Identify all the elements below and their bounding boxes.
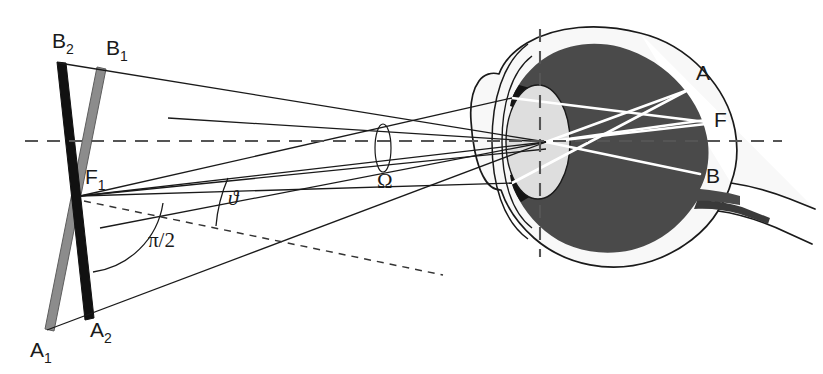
- label-omega: Ω: [377, 169, 393, 193]
- ray-lower-left-in: [80, 98, 512, 196]
- label-f1: F1: [85, 165, 106, 193]
- ray-a-bottom: [47, 142, 546, 330]
- label-retina-a: A: [696, 61, 710, 84]
- label-theta: ϑ: [228, 186, 240, 210]
- label-pi-over-two: π/2: [148, 228, 175, 252]
- ray-cone-lower: [100, 142, 546, 228]
- label-a1: A1: [30, 338, 52, 366]
- label-b1: B1: [106, 36, 128, 64]
- object-bars: [45, 62, 106, 331]
- bar-normal-dashed: [84, 201, 443, 275]
- label-retina-f: F: [714, 108, 727, 131]
- figure-canvas: B2 B1 F1 A1 A2 ϑ π/2 Ω A F B: [0, 0, 823, 374]
- label-b2: B2: [52, 29, 74, 57]
- angle-arc-theta: [216, 178, 228, 226]
- optics-eye-diagram: B2 B1 F1 A1 A2 ϑ π/2 Ω A F B: [0, 0, 823, 374]
- optic-nerve-outline: [718, 211, 812, 244]
- label-a2: A2: [90, 318, 112, 346]
- label-retina-b: B: [706, 164, 720, 187]
